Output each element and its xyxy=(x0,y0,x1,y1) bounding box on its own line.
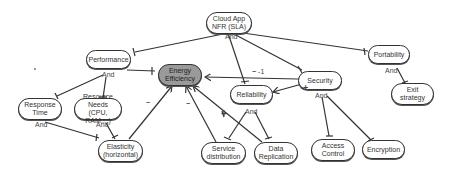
node-encryption[interactable]: Encryption xyxy=(362,140,405,159)
node-energy-efficiency[interactable]: Energy Efficiency xyxy=(158,64,202,86)
and-label-performance: And xyxy=(102,71,114,78)
node-exit-strategy[interactable]: Exit strategy xyxy=(391,83,434,105)
node-service-distribution[interactable]: Service distribution xyxy=(201,142,246,164)
and-label-response: And xyxy=(35,121,47,128)
and-label-reliability: And xyxy=(245,108,257,115)
node-elasticity[interactable]: Elasticity (horizontal) xyxy=(98,140,143,162)
node-resource-needs[interactable]: Resource Needs (CPU, RAM,...) xyxy=(74,98,122,120)
and-label-security: And xyxy=(315,92,327,99)
and-label-resource: And xyxy=(96,121,108,128)
and-label-root: And xyxy=(225,33,237,40)
node-access-control[interactable]: Access Control xyxy=(311,139,355,161)
contribution-security-reliability: + xyxy=(303,83,308,93)
and-label-portability: And xyxy=(385,67,397,74)
node-response-time[interactable]: Response Time xyxy=(18,98,62,120)
node-cloud-app-nfr[interactable]: Cloud App NFR (SLA) xyxy=(206,12,252,34)
contribution-security-energy: − -1 xyxy=(252,68,264,75)
contribution-data-energy: + xyxy=(221,108,227,119)
node-performance[interactable]: Performance xyxy=(86,50,131,69)
node-data-replication[interactable]: Data Replication xyxy=(254,142,298,164)
contribution-elasticity-energy: − xyxy=(146,99,150,106)
node-reliability[interactable]: Reliability xyxy=(230,85,273,104)
stray-dot xyxy=(34,68,36,70)
contribution-service-energy: − xyxy=(186,100,190,107)
node-portability[interactable]: Portability xyxy=(368,45,410,64)
